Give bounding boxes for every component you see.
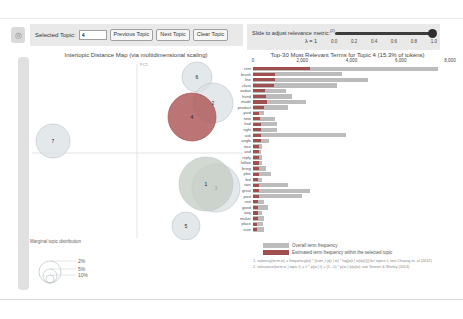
top-divider <box>0 18 463 19</box>
topic-number-4: 4 <box>191 114 194 120</box>
topic-frequency-bar[interactable] <box>253 200 258 203</box>
topic-frequency-bar[interactable] <box>253 228 257 231</box>
topic-frequency-bar[interactable] <box>253 217 258 220</box>
left-gutter <box>18 57 29 290</box>
topic-frequency-bar[interactable] <box>253 206 258 209</box>
x-axis-tick: 6,000 <box>395 58 406 63</box>
topic-frequency-bar[interactable] <box>253 184 259 187</box>
bottom-divider <box>0 299 463 300</box>
marginal-legend-circles: 10%5%2% <box>30 245 110 291</box>
topic-frequency-bar[interactable] <box>253 89 265 92</box>
topic-frequency-bar[interactable] <box>253 161 259 164</box>
x-axis-tick: 2,000 <box>297 58 308 63</box>
term-bar-chart: rentbrushlineclasssedanhandmadeproductya… <box>253 66 451 232</box>
topic-frequency-bar[interactable] <box>253 211 258 214</box>
previous-topic-button[interactable]: Previous Topic <box>110 29 154 41</box>
footnotes: 1. saliency(term w) = frequency(w) * [su… <box>253 259 432 270</box>
topic-frequency-swatch <box>263 250 289 255</box>
clear-topic-button[interactable]: Clear Topic <box>193 29 228 41</box>
topic-frequency-bar[interactable] <box>253 95 266 98</box>
topic-frequency-bar[interactable] <box>253 73 275 76</box>
slider-label: Slide to adjust relevance metric:(2) <box>252 28 335 36</box>
topic-frequency-bar[interactable] <box>253 139 261 142</box>
topic-frequency-bar[interactable] <box>253 223 257 226</box>
topic-frequency-bar[interactable] <box>253 178 258 181</box>
x-axis-tick: 4,000 <box>346 58 357 63</box>
lambda-slider-track[interactable] <box>335 32 433 35</box>
next-topic-button[interactable]: Next Topic <box>156 29 190 41</box>
topic-frequency-bar[interactable] <box>253 134 261 137</box>
marginal-topic-legend: Marginal topic distribution 10%5%2% <box>30 239 110 292</box>
topic-number-1: 1 <box>205 181 208 187</box>
topic-frequency-bar[interactable] <box>253 106 264 109</box>
topic-frequency-bar[interactable] <box>253 67 310 70</box>
bar-chart-legend: Overall term frequency Estimated term fr… <box>263 243 392 257</box>
topic-frequency-bar[interactable] <box>253 128 261 131</box>
size-legend-label: 10% <box>78 272 89 278</box>
overall-frequency-bar[interactable] <box>253 189 310 193</box>
topic-frequency-bar[interactable] <box>253 117 260 120</box>
topic-frequency-bar[interactable] <box>253 173 259 176</box>
topic-frequency-bar[interactable] <box>253 156 259 159</box>
topic-frequency-bar[interactable] <box>253 123 261 126</box>
slider-tick: 0.0 <box>331 39 337 44</box>
pyldavis-page: ◎ Selected Topic: Previous Topic Next To… <box>0 0 463 319</box>
footnote-1: 1. saliency(term w) = frequency(w) * [su… <box>253 259 432 265</box>
size-legend-label: 2% <box>78 258 86 264</box>
x-axis-tick: 8,000 <box>444 58 455 63</box>
slider-tick: 0.8 <box>411 39 417 44</box>
selected-topic-label: Selected Topic: <box>35 32 76 38</box>
size-legend-label: 5% <box>78 266 86 272</box>
overall-frequency-bar[interactable] <box>253 133 346 137</box>
size-legend-circle <box>43 269 57 283</box>
lambda-value: λ = 1 <box>305 38 317 44</box>
map-title: Intertopic Distance Map (via multidimens… <box>28 52 244 58</box>
topic-frequency-bar[interactable] <box>253 112 259 115</box>
slider-tick: 0.2 <box>351 39 357 44</box>
size-legend-circle <box>46 275 54 283</box>
notebook-prompt-icon: ◎ <box>11 27 25 43</box>
topic-frequency-bar[interactable] <box>253 195 259 198</box>
term-row[interactable]: sure <box>253 227 451 233</box>
term-label[interactable]: sure <box>243 227 251 233</box>
topic-controls: Selected Topic: Previous Topic Next Topi… <box>30 24 243 46</box>
bar-chart-x-axis: 02,0004,0006,0008,000 <box>253 58 453 64</box>
topic-frequency-bar[interactable] <box>253 150 259 153</box>
topic-number-6: 6 <box>196 74 199 80</box>
slider-tick: 0.6 <box>391 39 397 44</box>
topic-number-5: 5 <box>185 223 188 229</box>
overall-frequency-label: Overall term frequency <box>292 243 338 248</box>
topic-frequency-bar[interactable] <box>253 84 274 87</box>
size-legend-circle <box>39 261 61 283</box>
topic-frequency-bar[interactable] <box>253 78 275 81</box>
overall-frequency-bar[interactable] <box>253 194 302 198</box>
topic-frequency-label: Estimated term frequency within the sele… <box>292 250 392 255</box>
slider-tick: 0.4 <box>371 39 377 44</box>
topic-frequency-bar[interactable] <box>253 189 259 192</box>
slider-tick-labels: 0.00.20.40.60.81.0 <box>331 39 437 44</box>
slider-tick: 1.0 <box>431 39 437 44</box>
pc2-axis-label: PC2 <box>140 62 149 67</box>
footnote-2: 2. relevance(term w | topic t) = λ * p(w… <box>253 265 432 271</box>
topic-number-7: 7 <box>52 138 55 144</box>
relevance-controls: Slide to adjust relevance metric:(2) λ =… <box>247 24 440 50</box>
topic-frequency-bar[interactable] <box>253 100 267 103</box>
topic-frequency-bar[interactable] <box>253 145 259 148</box>
intertopic-distance-map: PC2 7624315 <box>30 60 245 240</box>
selected-topic-input[interactable] <box>79 30 107 40</box>
marginal-legend-title: Marginal topic distribution <box>30 239 110 244</box>
topic-frequency-bar[interactable] <box>253 167 259 170</box>
x-axis-tick: 0 <box>252 58 255 63</box>
overall-frequency-swatch <box>263 243 289 248</box>
lambda-slider-handle[interactable] <box>428 29 437 38</box>
